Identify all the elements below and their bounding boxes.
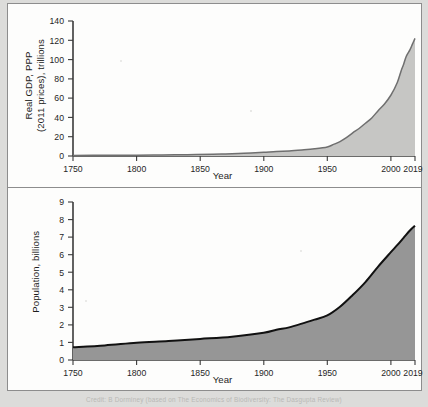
pop-ytick-0: 0: [59, 355, 64, 365]
chart-population-plot-area: 9 8 7 6 5 4 3 2 1 0: [8, 188, 421, 391]
chart-gdp-plot-area: 140 120 100 80 60 40 20 0: [8, 4, 421, 187]
pop-y-tick-labels: 9 8 7 6 5 4 3 2 1 0: [59, 197, 64, 365]
figure-page: 140 120 100 80 60 40 20 0: [0, 0, 428, 407]
gdp-y-axis-label-line1: Real GDP, PPP: [23, 16, 35, 156]
gdp-ytick-0: 0: [59, 151, 64, 161]
gdp-x-axis-label: Year: [16, 170, 428, 181]
gdp-ytick-80: 80: [54, 74, 64, 84]
figure-caption: Credit: B Dorminey (based on The Economi…: [0, 396, 428, 407]
gdp-area-fill: [73, 38, 415, 156]
population-area-fill: [73, 226, 415, 360]
gdp-ytick-40: 40: [54, 113, 64, 123]
pop-ytick-2: 2: [59, 320, 64, 330]
gdp-y-axis-label: Real GDP, PPP (2011 prices), trillions: [23, 16, 46, 156]
pop-ytick-6: 6: [59, 250, 64, 260]
population-y-axis-label: Population, billions: [30, 202, 42, 342]
pop-ytick-8: 8: [59, 215, 64, 225]
gdp-ytick-120: 120: [50, 36, 65, 46]
pop-ytick-7: 7: [59, 232, 64, 242]
chart-gdp-svg: 140 120 100 80 60 40 20 0: [8, 4, 423, 187]
chart-population-svg: 9 8 7 6 5 4 3 2 1 0: [8, 188, 423, 391]
scan-speck: [300, 250, 302, 252]
gdp-ytick-140: 140: [50, 16, 65, 26]
population-x-axis-label: Year: [16, 374, 428, 385]
pop-ytick-4: 4: [59, 285, 64, 295]
scan-speck: [120, 60, 122, 62]
pop-ytick-1: 1: [59, 338, 64, 348]
gdp-y-tick-labels: 140 120 100 80 60 40 20 0: [50, 16, 65, 161]
figure-panel: 140 120 100 80 60 40 20 0: [7, 3, 422, 391]
gdp-ytick-60: 60: [54, 93, 64, 103]
scan-speck: [250, 110, 252, 112]
chart-gdp: 140 120 100 80 60 40 20 0: [8, 4, 421, 187]
gdp-ytick-100: 100: [50, 55, 65, 65]
chart-population: 9 8 7 6 5 4 3 2 1 0: [8, 188, 421, 391]
gdp-ytick-20: 20: [54, 132, 64, 142]
pop-ytick-3: 3: [59, 303, 64, 313]
scan-speck: [85, 300, 87, 302]
gdp-y-axis-label-line2: (2011 prices), trillions: [34, 16, 46, 156]
pop-ytick-9: 9: [59, 197, 64, 207]
pop-ytick-5: 5: [59, 268, 64, 278]
